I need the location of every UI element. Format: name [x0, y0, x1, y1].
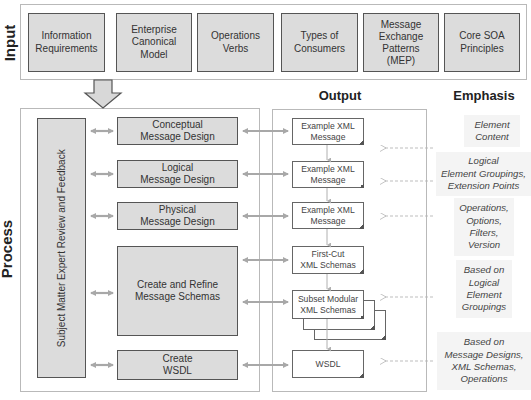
step-physical-message-design: Physical Message Design	[117, 202, 238, 230]
sme-review-label: Subject Matter Expert Review and Feedbac…	[55, 149, 68, 347]
input-message-exchange-patterns: Message Exchange Patterns (MEP)	[363, 13, 439, 72]
input-types-of-consumers: Types of Consumers	[281, 13, 358, 72]
sme-review-box: Subject Matter Expert Review and Feedbac…	[37, 118, 86, 378]
output-wsdl: WSDL	[292, 350, 364, 378]
input-core-soa-principles: Core SOA Principles	[444, 13, 520, 72]
output-heading: Output	[300, 88, 380, 103]
output-example-xml-physical: Example XML Message	[292, 202, 364, 229]
output-first-cut-schemas: First-Cut XML Schemas	[292, 246, 364, 274]
step-create-refine-schemas: Create and Refine Message Schemas	[117, 246, 238, 336]
input-enterprise-canonical-model: Enterprise Canonical Model	[116, 13, 192, 72]
emphasis-element-content: Element Content	[464, 115, 520, 147]
step-conceptual-message-design: Conceptual Message Design	[117, 117, 238, 145]
step-logical-message-design: Logical Message Design	[117, 160, 238, 188]
step-create-wsdl: Create WSDL	[117, 350, 238, 380]
output-example-xml-logical: Example XML Message	[292, 161, 364, 188]
emphasis-operations-options: Operations, Options, Filters, Version	[454, 198, 514, 256]
output-subset-modular-schemas: Subset Modular XML Schemas	[292, 290, 364, 319]
emphasis-based-on-message-designs: Based on Message Designs, XML Schemas, O…	[437, 332, 531, 390]
emphasis-based-on-logical: Based on Logical Element Groupings	[456, 260, 512, 318]
process-section-label: Process	[0, 217, 16, 281]
emphasis-heading: Emphasis	[440, 88, 528, 103]
emphasis-logical-groupings: Logical Element Groupings, Extension Poi…	[436, 152, 531, 196]
input-to-process-arrow	[85, 80, 121, 108]
input-information-requirements: Information Requirements	[28, 13, 105, 72]
input-operations-verbs: Operations Verbs	[197, 13, 274, 72]
output-example-xml-conceptual: Example XML Message	[292, 118, 364, 145]
input-section-label: Input	[1, 23, 19, 63]
